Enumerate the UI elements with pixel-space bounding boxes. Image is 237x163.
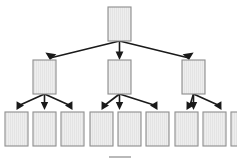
tree-node-leaf-1[interactable] xyxy=(5,112,28,146)
tree-node-mid-3[interactable] xyxy=(182,60,205,94)
edge-group-mid-1 xyxy=(17,94,73,110)
edge-mid-1-to-leaf-1 xyxy=(20,94,45,105)
tree-diagram-canvas xyxy=(0,0,237,163)
tree-node-leaf-9[interactable] xyxy=(231,112,237,146)
edge-mid-2-to-leaf-6 xyxy=(120,94,155,105)
tree-node-leaf-6[interactable] xyxy=(146,112,169,146)
arrow-head-mid-1-to-leaf-3 xyxy=(65,101,73,110)
tree-diagram xyxy=(0,0,237,163)
tree-node-leaf-7[interactable] xyxy=(175,112,198,146)
edge-root-to-mid-1 xyxy=(50,41,120,58)
edge-mid-3-to-leaf-9 xyxy=(194,94,219,105)
tree-node-leaf-5[interactable] xyxy=(118,112,141,146)
arrow-head-mid-1-to-leaf-2 xyxy=(41,102,48,110)
arrow-head-mid-1-to-leaf-1 xyxy=(17,101,25,110)
edge-group-root xyxy=(45,41,193,60)
tree-node-root[interactable] xyxy=(108,7,131,41)
tree-node-leaf-2[interactable] xyxy=(33,112,56,146)
arrow-head-root-to-mid-2 xyxy=(116,52,124,61)
edge-group-mid-3 xyxy=(187,94,222,110)
edge-root-to-mid-3 xyxy=(120,41,190,58)
tree-node-leaf-3[interactable] xyxy=(61,112,84,146)
tree-node-leaf-4[interactable] xyxy=(90,112,113,146)
tree-node-mid-2[interactable] xyxy=(108,60,131,94)
edge-mid-1-to-leaf-3 xyxy=(45,94,70,105)
tree-node-mid-1[interactable] xyxy=(33,60,56,94)
arrow-head-mid-2-to-leaf-5 xyxy=(116,102,123,110)
footer-bar-mark xyxy=(109,156,131,158)
arrow-head-mid-2-to-leaf-6 xyxy=(150,101,158,110)
edge-group-mid-2 xyxy=(102,94,158,110)
arrow-head-mid-3-to-leaf-9 xyxy=(214,101,222,110)
tree-node-leaf-8[interactable] xyxy=(203,112,226,146)
